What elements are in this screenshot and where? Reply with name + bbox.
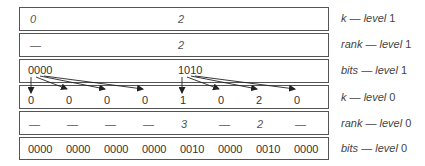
bits-level0-value-0: 0000 xyxy=(28,143,52,155)
k-level0-value-5: 0 xyxy=(218,94,224,106)
label-sep: — xyxy=(362,38,379,50)
rank-level0-value-6: 2 xyxy=(257,118,263,130)
label-name: bits xyxy=(341,64,358,76)
label-level: level xyxy=(375,64,398,76)
k-level1-row: 0 2 xyxy=(19,7,329,31)
bits-level1-value-0: 0000 xyxy=(28,64,52,76)
rank-level0-value-4: 3 xyxy=(181,118,187,130)
rank-level1-row: — 2 xyxy=(19,33,329,57)
label-level: level xyxy=(380,38,403,50)
rank-level0-row: — — — — 3 — 2 — xyxy=(19,111,329,135)
rank-level1-value-1: 2 xyxy=(178,39,184,51)
bits-level1-row: 0000 1010 xyxy=(19,59,329,83)
k-level0-label: k — level 0 xyxy=(341,91,395,103)
k-level0-value-6: 2 xyxy=(256,94,262,106)
label-level: level xyxy=(380,117,403,129)
label-num: 1 xyxy=(386,12,395,24)
bits-level0-row: 0000 0000 0000 0000 0010 0000 0010 0000 xyxy=(19,137,329,160)
label-num: 1 xyxy=(398,64,407,76)
bits-level1-label: bits — level 1 xyxy=(341,64,407,76)
label-num: 0 xyxy=(386,91,395,103)
k-level0-value-4: 1 xyxy=(180,94,186,106)
bits-level0-value-5: 0000 xyxy=(218,143,242,155)
label-sep: — xyxy=(347,12,364,24)
bits-level0-value-7: 0000 xyxy=(294,143,318,155)
label-sep: — xyxy=(358,142,375,154)
rank-level0-value-5: — xyxy=(219,118,230,130)
label-name: rank xyxy=(341,117,362,129)
bits-level1-value-1: 1010 xyxy=(178,64,202,76)
label-num: 0 xyxy=(402,117,411,129)
k-level0-value-2: 0 xyxy=(104,94,110,106)
rank-level0-value-3: — xyxy=(143,118,154,130)
rank-level0-value-7: — xyxy=(295,118,306,130)
k-level0-value-1: 0 xyxy=(66,94,72,106)
bits-level0-value-2: 0000 xyxy=(104,143,128,155)
k-level1-label: k — level 1 xyxy=(341,12,395,24)
label-level: level xyxy=(364,91,387,103)
bits-level0-value-1: 0000 xyxy=(66,143,90,155)
bits-level0-value-4: 0010 xyxy=(180,143,204,155)
label-name: rank xyxy=(341,38,362,50)
label-sep: — xyxy=(347,91,364,103)
label-num: 0 xyxy=(398,142,407,154)
rank-level0-label: rank — level 0 xyxy=(341,117,411,129)
bits-level0-label: bits — level 0 xyxy=(341,142,407,154)
label-level: level xyxy=(364,12,387,24)
k-level1-value-0: 0 xyxy=(30,13,36,25)
label-sep: — xyxy=(358,64,375,76)
rank-level1-value-0: — xyxy=(30,39,41,51)
k-level1-value-1: 2 xyxy=(178,13,184,25)
label-num: 1 xyxy=(402,38,411,50)
k-level0-row: 0 0 0 0 1 0 2 0 xyxy=(19,85,329,109)
k-level0-value-7: 0 xyxy=(294,94,300,106)
bits-level0-value-6: 0010 xyxy=(256,143,280,155)
label-sep: — xyxy=(362,117,379,129)
rank-level0-value-0: — xyxy=(29,118,40,130)
label-name: bits xyxy=(341,142,358,154)
rank-level0-value-1: — xyxy=(67,118,78,130)
bits-level0-value-3: 0000 xyxy=(142,143,166,155)
label-level: level xyxy=(375,142,398,154)
k-level0-value-3: 0 xyxy=(142,94,148,106)
k-level0-value-0: 0 xyxy=(28,94,34,106)
rank-level1-label: rank — level 1 xyxy=(341,38,411,50)
rank-level0-value-2: — xyxy=(105,118,116,130)
